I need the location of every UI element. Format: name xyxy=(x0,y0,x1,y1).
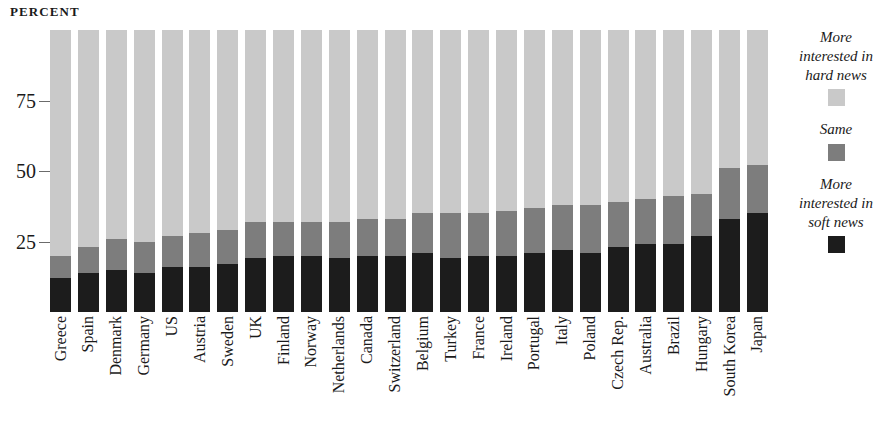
x-axis-label: UK xyxy=(245,312,266,422)
x-axis-label-text: Sweden xyxy=(220,316,236,367)
bar-germany[interactable] xyxy=(134,30,155,312)
bar-czech-rep[interactable] xyxy=(608,30,629,312)
bar-austria[interactable] xyxy=(189,30,210,312)
y-axis-tick-label: 50 xyxy=(16,160,36,183)
bar-segment-soft xyxy=(301,256,322,312)
bar-segment-hard xyxy=(663,30,684,196)
bar-poland[interactable] xyxy=(580,30,601,312)
bar-segment-soft xyxy=(162,267,183,312)
x-axis-label-text: Norway xyxy=(303,316,319,368)
bar-italy[interactable] xyxy=(552,30,573,312)
bar-segment-hard xyxy=(134,30,155,242)
legend-swatch-soft xyxy=(828,236,845,253)
x-axis-label-text: Austria xyxy=(192,316,208,363)
bar-segment-same xyxy=(635,199,656,244)
bar-segment-hard xyxy=(162,30,183,236)
bar-netherlands[interactable] xyxy=(329,30,350,312)
bar-south-korea[interactable] xyxy=(719,30,740,312)
bar-australia[interactable] xyxy=(635,30,656,312)
bar-segment-hard xyxy=(580,30,601,205)
bar-segment-soft xyxy=(245,258,266,312)
bar-greece[interactable] xyxy=(50,30,71,312)
x-axis-label-text: Czech Rep. xyxy=(610,316,626,390)
bar-ireland[interactable] xyxy=(496,30,517,312)
bar-portugal[interactable] xyxy=(524,30,545,312)
legend-label: Same xyxy=(790,120,882,139)
bar-segment-hard xyxy=(635,30,656,199)
bar-segment-same xyxy=(189,233,210,267)
bar-segment-same xyxy=(301,222,322,256)
x-axis-label-text: South Korea xyxy=(722,316,738,396)
x-axis-label-text: Hungary xyxy=(694,316,710,372)
bar-segment-hard xyxy=(412,30,433,213)
bar-segment-soft xyxy=(357,256,378,312)
bar-brazil[interactable] xyxy=(663,30,684,312)
plot-area xyxy=(50,30,768,312)
bar-segment-same xyxy=(78,247,99,272)
bar-segment-same xyxy=(663,196,684,244)
x-axis-label: Denmark xyxy=(106,312,127,422)
bar-segment-same xyxy=(357,219,378,256)
bar-segment-hard xyxy=(608,30,629,202)
bar-segment-soft xyxy=(663,244,684,312)
bar-segment-hard xyxy=(440,30,461,213)
bar-segment-soft xyxy=(273,256,294,312)
bar-segment-soft xyxy=(468,256,489,312)
legend-label: More interested in hard news xyxy=(790,28,882,84)
bar-finland[interactable] xyxy=(273,30,294,312)
y-axis-tick-mark xyxy=(39,242,50,243)
bar-canada[interactable] xyxy=(357,30,378,312)
bar-us[interactable] xyxy=(162,30,183,312)
bar-sweden[interactable] xyxy=(217,30,238,312)
x-axis-label-text: Turkey xyxy=(443,316,459,362)
bar-denmark[interactable] xyxy=(106,30,127,312)
x-axis-label: Canada xyxy=(357,312,378,422)
bar-japan[interactable] xyxy=(747,30,768,312)
legend: More interested in hard newsSameMore int… xyxy=(790,28,882,267)
bar-segment-soft xyxy=(50,278,71,312)
bar-group xyxy=(50,30,768,312)
bar-segment-same xyxy=(608,202,629,247)
bar-segment-soft xyxy=(552,250,573,312)
bar-segment-hard xyxy=(524,30,545,208)
bar-segment-same xyxy=(552,205,573,250)
bar-segment-same xyxy=(412,213,433,252)
x-axis-label-text: Italy xyxy=(554,316,570,345)
bar-belgium[interactable] xyxy=(412,30,433,312)
bar-segment-hard xyxy=(329,30,350,222)
x-axis-label-text: Australia xyxy=(638,316,654,375)
bar-segment-soft xyxy=(189,267,210,312)
x-axis-label-text: Brazil xyxy=(666,316,682,355)
bar-france[interactable] xyxy=(468,30,489,312)
x-axis-label: Italy xyxy=(552,312,573,422)
bar-norway[interactable] xyxy=(301,30,322,312)
bar-segment-hard xyxy=(50,30,71,256)
bar-switzerland[interactable] xyxy=(385,30,406,312)
legend-item-hard[interactable]: More interested in hard news xyxy=(790,28,882,106)
bar-segment-soft xyxy=(217,264,238,312)
bar-segment-soft xyxy=(719,219,740,312)
bar-hungary[interactable] xyxy=(691,30,712,312)
bar-segment-same xyxy=(691,194,712,236)
bar-segment-hard xyxy=(273,30,294,222)
x-axis-label: Japan xyxy=(747,312,768,422)
bar-turkey[interactable] xyxy=(440,30,461,312)
bar-segment-hard xyxy=(245,30,266,222)
bar-segment-same xyxy=(162,236,183,267)
x-axis-label-text: Spain xyxy=(80,316,96,352)
bar-segment-soft xyxy=(691,236,712,312)
legend-item-soft[interactable]: More interested in soft news xyxy=(790,175,882,253)
x-axis-label-text: Canada xyxy=(359,316,375,364)
bar-segment-same xyxy=(580,205,601,253)
bar-segment-same xyxy=(468,213,489,255)
x-axis-label: Poland xyxy=(580,312,601,422)
bar-segment-soft xyxy=(134,273,155,312)
legend-item-same[interactable]: Same xyxy=(790,120,882,161)
bar-segment-soft xyxy=(106,270,127,312)
x-axis-label-text: France xyxy=(471,316,487,360)
bar-segment-soft xyxy=(78,273,99,312)
bar-uk[interactable] xyxy=(245,30,266,312)
bar-spain[interactable] xyxy=(78,30,99,312)
bar-segment-hard xyxy=(301,30,322,222)
bar-segment-same xyxy=(719,168,740,219)
